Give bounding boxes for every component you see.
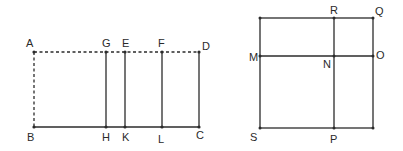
point-L	[160, 125, 163, 128]
label-R: R	[330, 4, 338, 16]
label-M: M	[249, 51, 258, 63]
point-P	[333, 127, 336, 130]
outer-square	[260, 18, 373, 128]
label-A: A	[26, 37, 34, 49]
point-F	[160, 50, 163, 53]
label-C: C	[196, 129, 204, 141]
label-L: L	[158, 133, 164, 145]
label-G: G	[102, 37, 111, 49]
point-M	[259, 55, 262, 58]
left-figure: A G E F D B H K L C	[26, 37, 210, 145]
label-B: B	[27, 131, 34, 143]
point-D	[197, 50, 200, 53]
label-F: F	[158, 37, 165, 49]
point-R	[333, 17, 336, 20]
label-H: H	[102, 131, 110, 143]
point-bottom-right	[372, 127, 375, 130]
label-D: D	[202, 40, 210, 52]
label-O: O	[376, 49, 385, 61]
point-E	[123, 50, 126, 53]
point-H	[104, 125, 107, 128]
point-N	[333, 55, 336, 58]
point-A	[32, 50, 35, 53]
label-Q: Q	[375, 5, 384, 17]
point-K	[123, 125, 126, 128]
point-top-left	[259, 17, 262, 20]
point-O	[372, 55, 375, 58]
label-S: S	[250, 131, 257, 143]
label-P: P	[330, 133, 337, 145]
right-figure: R Q M N O S P	[249, 4, 385, 145]
point-S	[259, 127, 262, 130]
label-N: N	[323, 58, 331, 70]
label-E: E	[122, 37, 129, 49]
label-K: K	[122, 131, 130, 143]
point-B	[32, 125, 35, 128]
point-G	[104, 50, 107, 53]
geometry-diagram: A G E F D B H K L C R Q M N O S P	[0, 0, 403, 151]
